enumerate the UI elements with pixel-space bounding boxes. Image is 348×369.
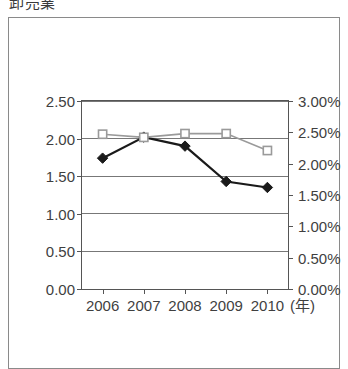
data-point-marker [97,153,107,163]
x-tick-label: 2009 [210,298,243,314]
y-right-tick-label: 1.00% [298,219,341,234]
y-right-tick-label: 0.00% [298,282,341,297]
y-right-tick-label: 2.50% [298,125,341,140]
y-right-tick [288,226,293,227]
y-left-tick [77,289,82,290]
data-point-marker [140,133,148,141]
y-left-tick-label: 1.50 [46,169,75,184]
y-right-tick [288,258,293,259]
x-tick [103,289,104,294]
y-left-tick-label: 0.50 [46,244,75,259]
x-tick [144,289,145,294]
y-right-tick-label: 1.50% [298,188,341,203]
x-tick-label: 2007 [127,298,160,314]
y-right-tick-label: 0.50% [298,250,341,265]
data-point-marker [262,182,272,192]
data-point-marker [263,146,271,154]
x-axis-unit-label: (年) [290,298,315,314]
x-tick-label: 2008 [168,298,201,314]
series-layer [82,101,288,289]
y-left-tick-label: 2.00 [46,131,75,146]
data-point-marker [99,130,107,138]
x-tick [185,289,186,294]
plot-area: 0.000.501.001.502.002.500.00%0.50%1.00%1… [81,100,289,290]
y-right-tick [288,289,293,290]
y-left-tick-label: 2.50 [46,94,75,109]
figure-frame: 0.000.501.001.502.002.500.00%0.50%1.00%1… [8,17,340,369]
y-right-tick [288,195,293,196]
data-point-marker [222,129,230,137]
data-point-marker [181,129,189,137]
x-tick [267,289,268,294]
x-tick-label: 2010 [251,298,284,314]
chart-title: 卸売業 [9,0,56,11]
y-left-tick-label: 0.00 [46,282,75,297]
y-right-tick [288,164,293,165]
y-right-tick-label: 2.00% [298,156,341,171]
y-right-tick [288,101,293,102]
y-left-tick-label: 1.00 [46,206,75,221]
y-right-tick-label: 3.00% [298,94,341,109]
x-tick [226,289,227,294]
y-right-tick [288,132,293,133]
x-tick-label: 2006 [86,298,119,314]
